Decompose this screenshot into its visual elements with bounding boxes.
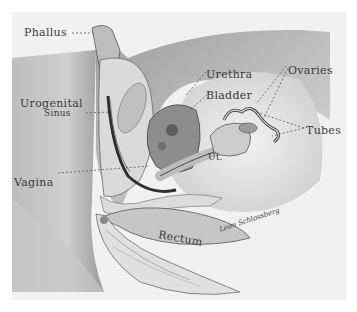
label-sinus: Sinus xyxy=(44,108,71,118)
anatomy-illustration xyxy=(12,12,347,300)
label-urethra: Urethra xyxy=(206,68,252,81)
label-ovaries: Ovaries xyxy=(288,64,333,77)
illustration-frame: Phallus Urogenital Sinus Urethra Bladder… xyxy=(12,12,347,300)
label-phallus: Phallus xyxy=(24,26,67,39)
label-tubes: Tubes xyxy=(306,124,341,137)
label-bladder: Bladder xyxy=(206,89,252,102)
ovary-shape xyxy=(239,123,257,133)
label-uterus: Ut. xyxy=(208,152,223,162)
label-vagina: Vagina xyxy=(14,176,54,189)
